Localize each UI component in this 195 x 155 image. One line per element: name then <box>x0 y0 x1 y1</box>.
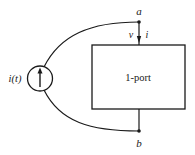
source-label: i(t) <box>9 73 22 85</box>
current-source <box>28 66 53 91</box>
voltage-label: v <box>129 29 134 40</box>
one-port-label: 1-port <box>125 72 151 83</box>
current-arrow-down-icon <box>137 36 141 43</box>
circuit-svg: a b v i i(t) 1-port <box>0 0 195 155</box>
current-label: i <box>146 29 149 40</box>
terminal-a-label: a <box>136 5 142 17</box>
terminal-b-dot <box>137 129 141 133</box>
circuit-diagram: a b v i i(t) 1-port <box>0 0 195 155</box>
terminal-b-label: b <box>136 137 142 149</box>
terminal-a-dot <box>137 20 141 24</box>
